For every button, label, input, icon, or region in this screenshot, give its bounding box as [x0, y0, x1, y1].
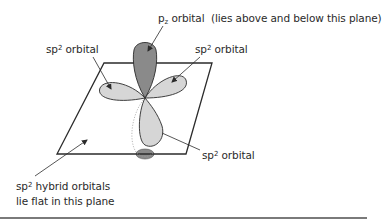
- sp2-bottom-base: sp: [202, 149, 214, 161]
- plane-note-rest: hybrid orbitals: [32, 180, 110, 192]
- hybrid-plane: [57, 63, 212, 154]
- plane-note-line1: sp2 hybrid orbitals: [16, 179, 114, 194]
- sp2-left-base: sp: [46, 43, 58, 55]
- sp2-bottom-rest: orbital: [218, 149, 254, 161]
- plane-note-line2: lie flat in this plane: [16, 194, 114, 209]
- sp2-bottom-lobe: [139, 98, 162, 146]
- bottom-divider: [0, 217, 367, 219]
- sp2-right-pointer-arrow: [172, 57, 200, 82]
- sp2-right-rest: orbital: [211, 43, 247, 55]
- pz-orbital-label: pz orbital (lies above and below this pl…: [158, 12, 382, 24]
- sp2-left-label: sp2 orbital: [46, 43, 99, 55]
- pz-pointer-arrow: [148, 26, 163, 51]
- pz-label-main: p: [158, 12, 165, 24]
- sp2-left-pointer-arrow: [93, 57, 111, 89]
- sp2-right-base: sp: [195, 43, 207, 55]
- sp2-bottom-pointer-line: [162, 133, 200, 150]
- sp2-left-rest: orbital: [62, 43, 98, 55]
- sp2-bottom-label: sp2 orbital: [202, 149, 255, 161]
- plane-note-base: sp: [16, 180, 28, 192]
- plane-note-label: sp2 hybrid orbitals lie flat in this pla…: [16, 179, 114, 209]
- sp2-right-label: sp2 orbital: [195, 43, 248, 55]
- pz-label-rest: orbital (lies above and below this plane…: [168, 12, 381, 24]
- sp2-left-lobe: [99, 83, 145, 101]
